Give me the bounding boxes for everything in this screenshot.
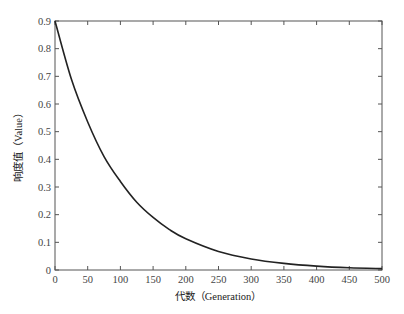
x-tick-label: 100	[113, 274, 129, 285]
x-tick-label: 400	[309, 274, 325, 285]
x-tick-label: 500	[374, 274, 390, 285]
x-axis-label: 代数（Generation）	[175, 290, 262, 302]
x-tick-label: 50	[82, 274, 93, 285]
plot-frame	[55, 21, 382, 270]
x-tick-label: 350	[276, 274, 292, 285]
x-tick-label: 450	[341, 274, 357, 285]
y-tick-label: 0.3	[38, 182, 51, 193]
y-tick-label: 0.6	[38, 99, 51, 110]
x-tick-label: 150	[145, 274, 161, 285]
y-tick-label: 0.5	[38, 126, 51, 137]
line-chart: 050100150200250300350400450500 00.10.20.…	[0, 0, 404, 314]
y-tick-label: 0.1	[38, 237, 51, 248]
x-tick-label: 200	[178, 274, 194, 285]
y-tick-label: 0.4	[38, 154, 52, 165]
x-tick-label: 0	[52, 274, 57, 285]
y-axis-label: 响度值（Value）	[12, 108, 24, 182]
data-series-line	[55, 21, 382, 269]
y-axis-ticks: 00.10.20.30.40.50.60.70.80.9	[38, 16, 382, 276]
y-tick-label: 0.9	[38, 16, 51, 27]
x-tick-label: 300	[243, 274, 259, 285]
y-tick-label: 0.7	[38, 71, 51, 82]
y-tick-label: 0.2	[38, 209, 51, 220]
y-tick-label: 0	[46, 265, 51, 276]
x-tick-label: 250	[211, 274, 227, 285]
y-tick-label: 0.8	[38, 43, 51, 54]
